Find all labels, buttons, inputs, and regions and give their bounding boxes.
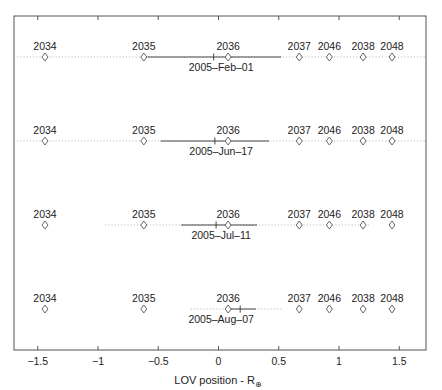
- diamond-marker-icon: [326, 53, 332, 61]
- x-tick-label: −1.5: [27, 355, 48, 367]
- marker-year-label: 2038: [351, 292, 375, 304]
- lov-chart: 2005–Feb–0120342035203620372046203820482…: [0, 0, 442, 390]
- marker-year-label: 2037: [288, 124, 312, 136]
- row-2005-aug-07: 2005–Aug–072034203520362037204620382048: [33, 292, 404, 325]
- marker-year-label: 2046: [318, 208, 342, 220]
- marker-year-label: 2046: [318, 292, 342, 304]
- x-tick-label: −1: [92, 355, 104, 367]
- marker-year-label: 2036: [216, 40, 240, 52]
- diamond-marker-icon: [360, 137, 366, 145]
- marker-year-label: 2036: [216, 124, 240, 136]
- diamond-marker-icon: [389, 137, 395, 145]
- diamond-marker-icon: [141, 221, 147, 229]
- row-date-label: 2005–Feb–01: [189, 61, 254, 73]
- diamond-marker-icon: [296, 53, 302, 61]
- marker-year-label: 2034: [33, 208, 57, 220]
- diamond-marker-icon: [225, 221, 231, 229]
- x-tick-label: 1.5: [392, 355, 407, 367]
- marker-year-label: 2035: [132, 40, 156, 52]
- diamond-marker-icon: [389, 221, 395, 229]
- diamond-marker-icon: [225, 137, 231, 145]
- diamond-marker-icon: [296, 137, 302, 145]
- marker-year-label: 2035: [132, 292, 156, 304]
- x-tick-label: 1: [336, 355, 342, 367]
- marker-year-label: 2037: [288, 292, 312, 304]
- marker-year-label: 2037: [288, 208, 312, 220]
- marker-year-label: 2046: [318, 124, 342, 136]
- diamond-marker-icon: [42, 305, 48, 313]
- marker-year-label: 2034: [33, 40, 57, 52]
- diamond-marker-icon: [389, 305, 395, 313]
- chart-rows: 2005–Feb–0120342035203620372046203820482…: [14, 40, 426, 325]
- row-2005-feb-01: 2005–Feb–012034203520362037204620382048: [14, 40, 426, 73]
- diamond-marker-icon: [326, 221, 332, 229]
- diamond-marker-icon: [225, 53, 231, 61]
- marker-year-label: 2048: [380, 124, 404, 136]
- diamond-marker-icon: [141, 53, 147, 61]
- diamond-marker-icon: [360, 221, 366, 229]
- row-date-label: 2005–Jul–11: [191, 229, 251, 241]
- diamond-marker-icon: [42, 137, 48, 145]
- diamond-marker-icon: [326, 137, 332, 145]
- diamond-marker-icon: [42, 53, 48, 61]
- diamond-marker-icon: [360, 53, 366, 61]
- diamond-marker-icon: [225, 305, 231, 313]
- diamond-marker-icon: [296, 221, 302, 229]
- diamond-marker-icon: [296, 305, 302, 313]
- marker-year-label: 2046: [318, 40, 342, 52]
- row-date-label: 2005–Aug–07: [188, 313, 254, 325]
- marker-year-label: 2038: [351, 124, 375, 136]
- row-2005-jul-11: 2005–Jul–112034203520362037204620382048: [33, 208, 404, 241]
- diamond-marker-icon: [141, 305, 147, 313]
- diamond-marker-icon: [42, 221, 48, 229]
- marker-year-label: 2035: [132, 124, 156, 136]
- row-2005-jun-17: 2005–Jun–172034203520362037204620382048: [14, 124, 426, 157]
- diamond-marker-icon: [326, 305, 332, 313]
- marker-year-label: 2034: [33, 124, 57, 136]
- x-tick-label: −0.5: [148, 355, 169, 367]
- diamond-marker-icon: [141, 137, 147, 145]
- x-tick-label: 0: [216, 355, 222, 367]
- marker-year-label: 2036: [216, 292, 240, 304]
- marker-year-label: 2038: [351, 40, 375, 52]
- x-axis-label: LOV position - R⊕: [174, 374, 261, 389]
- x-tick-label: 0.5: [271, 355, 286, 367]
- marker-year-label: 2035: [132, 208, 156, 220]
- diamond-marker-icon: [360, 305, 366, 313]
- marker-year-label: 2037: [288, 40, 312, 52]
- marker-year-label: 2036: [216, 208, 240, 220]
- row-date-label: 2005–Jun–17: [189, 145, 253, 157]
- marker-year-label: 2048: [380, 208, 404, 220]
- marker-year-label: 2034: [33, 292, 57, 304]
- marker-year-label: 2048: [380, 40, 404, 52]
- diamond-marker-icon: [389, 53, 395, 61]
- marker-year-label: 2038: [351, 208, 375, 220]
- marker-year-label: 2048: [380, 292, 404, 304]
